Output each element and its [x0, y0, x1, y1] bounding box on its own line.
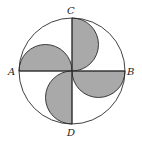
label-c: C	[67, 5, 75, 16]
semicircle-upper-left	[19, 45, 72, 72]
pinwheel-diagram: A B C D	[0, 0, 142, 145]
label-a: A	[7, 66, 15, 77]
semicircle-lower-right	[72, 71, 125, 98]
diagram: A B C D	[0, 0, 142, 145]
label-d: D	[66, 127, 75, 138]
semicircle-upper-right	[72, 18, 99, 71]
semicircle-lower-left	[46, 71, 73, 124]
label-b: B	[126, 66, 134, 77]
